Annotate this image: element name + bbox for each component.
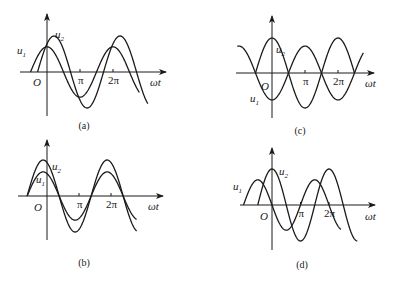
x-axis-label: ωt: [365, 210, 377, 222]
x-axis-label: ωt: [150, 76, 162, 88]
subplot-a: π2πu1u2Oωt(a): [17, 14, 166, 132]
subplot-caption: (c): [294, 125, 305, 137]
x-tick-label: π: [78, 74, 84, 86]
origin-label: O: [34, 201, 42, 213]
series-label-u1: u1: [250, 92, 259, 107]
phase-diagrams-figure: π2πu1u2Oωt(a) π2πu1u2Oωt(b) π2πu1u2Oωt(c…: [0, 0, 394, 285]
subplot-b: π2πu1u2Oωt(b): [18, 140, 163, 269]
series-label-u2: u2: [52, 160, 62, 175]
series-label-u2: u2: [279, 165, 289, 180]
origin-label: O: [33, 76, 41, 88]
series-label-u1: u1: [17, 44, 26, 59]
series-label-u1: u1: [233, 180, 242, 195]
series-label-u1: u1: [36, 173, 45, 188]
series-label-u2: u2: [276, 43, 286, 58]
subplot-caption: (d): [296, 259, 308, 271]
x-axis-label: ωt: [365, 77, 377, 89]
subplot-c: π2πu1u2Oωt(c): [236, 16, 377, 137]
subplot-d: π2πu1u2Oωt(d): [233, 148, 377, 271]
x-tick-label: 2π: [106, 198, 118, 210]
x-tick-label: π: [303, 75, 309, 87]
x-tick-label: π: [77, 198, 83, 210]
origin-label: O: [261, 80, 269, 92]
origin-label: O: [260, 210, 268, 222]
subplot-caption: (a): [78, 120, 89, 132]
x-axis-label: ωt: [148, 200, 160, 212]
x-tick-label: 2π: [333, 75, 345, 87]
subplot-caption: (b): [78, 257, 90, 269]
x-tick-label: 2π: [108, 74, 120, 86]
series-label-u2: u2: [55, 28, 65, 43]
